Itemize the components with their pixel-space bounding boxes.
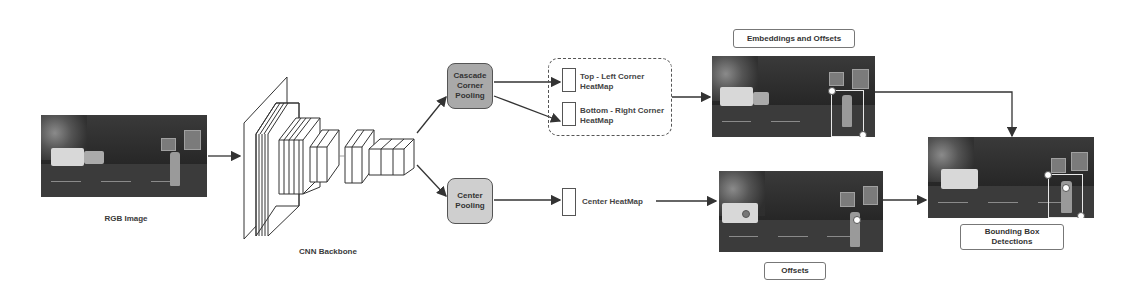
br-line2: HeatMap	[580, 116, 664, 126]
bbox-label-line1: Bounding Box	[985, 227, 1040, 237]
cnn-backbone-label: CNN Backbone	[283, 247, 373, 256]
top-left-heatmap-block	[562, 68, 576, 92]
embeddings-offsets-tag: Embeddings and Offsets	[733, 29, 855, 48]
offsets-tag: Offsets	[764, 262, 826, 280]
center-pooling-node: Center Pooling	[447, 178, 493, 224]
cascade-corner-pooling-node: Cascade Corner Pooling	[447, 63, 493, 109]
center-heatmap-block	[562, 188, 576, 216]
tl-line2: HeatMap	[580, 82, 644, 92]
tl-line1: Top - Left Corner	[580, 72, 644, 82]
top-left-heatmap-label: Top - Left Corner HeatMap	[580, 72, 644, 92]
bounding-box-detections-image	[928, 137, 1094, 218]
cascade-label-line3: Pooling	[454, 91, 487, 101]
center-pool-label-line2: Pooling	[455, 201, 484, 211]
center-pool-label-line1: Center	[455, 191, 484, 201]
bottom-right-heatmap-label: Bottom - Right Corner HeatMap	[580, 106, 664, 126]
bounding-box-detections-tag: Bounding Box Detections	[960, 224, 1064, 250]
cascade-label-line1: Cascade	[454, 71, 487, 81]
offsets-image	[719, 171, 883, 252]
cascade-label-line2: Corner	[454, 81, 487, 91]
br-line1: Bottom - Right Corner	[580, 106, 664, 116]
bottom-right-heatmap-block	[562, 102, 576, 126]
bbox-label-line2: Detections	[985, 237, 1040, 247]
center-heatmap-label: Center HeatMap	[582, 197, 643, 207]
embeddings-offsets-image	[712, 56, 875, 137]
